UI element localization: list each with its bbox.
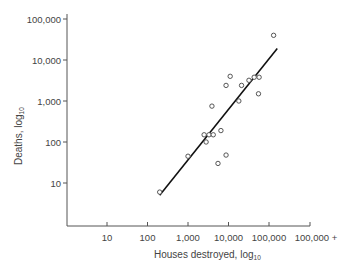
data-point xyxy=(256,92,260,96)
x-axis: 101001,00010,000100,000100,000 + xyxy=(67,222,338,243)
data-points xyxy=(157,33,275,194)
y-tick-label: 100 xyxy=(45,137,61,148)
x-tick-label: 10 xyxy=(102,232,113,243)
x-tick-label: 100,000 xyxy=(252,232,286,243)
data-point xyxy=(247,78,251,82)
x-tick-label: 100 xyxy=(140,232,156,243)
x-tick-label: 100,000 + xyxy=(295,232,338,243)
data-point xyxy=(204,140,208,144)
data-point xyxy=(237,99,241,103)
data-point xyxy=(224,83,228,87)
data-point xyxy=(210,104,214,108)
data-point xyxy=(239,83,243,87)
y-axis: 101001,00010,000100,000 xyxy=(27,14,67,227)
data-point xyxy=(207,133,211,137)
data-point xyxy=(257,75,261,79)
y-tick-label: 100,000 xyxy=(27,14,61,25)
data-point xyxy=(224,153,228,157)
data-point xyxy=(202,133,206,137)
data-point xyxy=(216,161,220,165)
regression-line-path xyxy=(160,49,278,196)
x-tick-label: 1,000 xyxy=(176,232,200,243)
y-axis-title: Deaths, log10 xyxy=(13,107,25,165)
regression-line xyxy=(160,49,278,196)
y-tick-label: 1,000 xyxy=(37,96,61,107)
y-tick-label: 10 xyxy=(50,178,61,189)
scatter-chart: 101001,00010,000100,000 101001,00010,000… xyxy=(0,0,346,271)
data-point xyxy=(157,190,161,194)
data-point xyxy=(211,133,215,137)
data-point xyxy=(228,74,232,78)
x-tick-label: 10,000 xyxy=(214,232,243,243)
data-point xyxy=(186,154,190,158)
data-point xyxy=(271,33,275,37)
data-point xyxy=(252,75,256,79)
data-point xyxy=(219,128,223,132)
y-tick-label: 10,000 xyxy=(32,55,61,66)
x-axis-title: Houses destroyed, log10 xyxy=(154,249,261,261)
